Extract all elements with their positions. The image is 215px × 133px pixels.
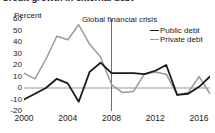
chart-legend: Public debt Private debt xyxy=(150,26,203,44)
legend-swatch-private-debt xyxy=(150,39,159,40)
x-tick-label: 2012 xyxy=(146,113,165,123)
legend-swatch-public-debt xyxy=(150,30,159,31)
y-tick-label: 40 xyxy=(2,38,22,46)
y-tick-label: 50 xyxy=(2,27,22,35)
y-tick-label: -10 xyxy=(2,96,22,104)
crisis-annotation-label: Global financial crisis xyxy=(82,15,157,24)
x-tick-label: 2008 xyxy=(102,113,121,123)
y-tick-label: 60 xyxy=(2,15,22,23)
y-tick-label: 20 xyxy=(2,61,22,69)
y-tick-label: 10 xyxy=(2,73,22,81)
x-axis-tick-labels: 20002004200820122016 xyxy=(0,113,215,127)
y-tick-label: 0 xyxy=(2,84,22,92)
legend-item-public-debt: Public debt xyxy=(150,26,203,35)
y-tick-label: 30 xyxy=(2,50,22,58)
x-tick-label: 2004 xyxy=(58,113,77,123)
x-tick-label: 2016 xyxy=(190,113,209,123)
chart-figure: Credit growth in external debt Percent 6… xyxy=(0,0,215,133)
legend-item-private-debt: Private debt xyxy=(150,35,203,44)
legend-label-public-debt: Public debt xyxy=(160,26,200,35)
legend-label-private-debt: Private debt xyxy=(160,35,203,44)
x-tick-label: 2000 xyxy=(15,113,34,123)
series-line-public-debt xyxy=(24,63,210,102)
